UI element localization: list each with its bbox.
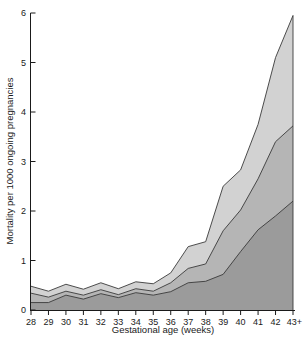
- y-tick-label: 0: [21, 305, 26, 315]
- y-tick-label: 5: [21, 58, 26, 68]
- y-axis-title: Mortality per 1000 ongoing pregnancies: [4, 78, 15, 245]
- y-tick-label: 2: [21, 206, 26, 216]
- chart-plot-area: 012345628293031323334353637383940414243+: [0, 0, 308, 353]
- x-tick-label: 29: [43, 317, 53, 327]
- y-tick-label: 1: [21, 256, 26, 266]
- x-tick-label: 39: [218, 317, 228, 327]
- x-tick-label: 31: [78, 317, 88, 327]
- y-tick-label: 3: [21, 157, 26, 167]
- x-tick-label: 28: [26, 317, 36, 327]
- x-tick-label: 30: [61, 317, 71, 327]
- x-axis-title: Gestational age (weeks): [112, 324, 214, 335]
- x-tick-label: 43+: [287, 317, 302, 327]
- x-tick-label: 32: [96, 317, 106, 327]
- x-tick-label: 42: [271, 317, 281, 327]
- mortality-area-chart: 012345628293031323334353637383940414243+…: [0, 0, 308, 353]
- y-tick-label: 4: [21, 107, 26, 117]
- x-tick-label: 41: [253, 317, 263, 327]
- y-tick-label: 6: [21, 8, 26, 18]
- x-tick-label: 40: [236, 317, 246, 327]
